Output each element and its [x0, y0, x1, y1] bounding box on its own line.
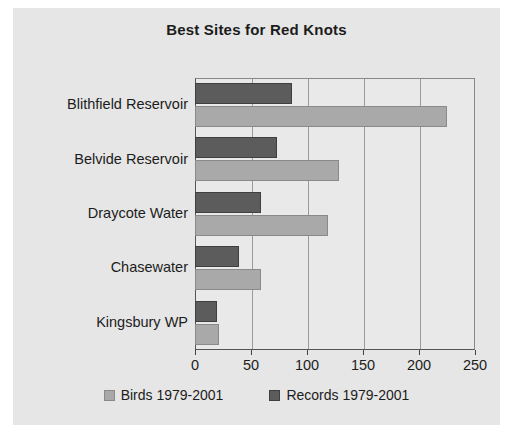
bar-birds	[195, 160, 339, 181]
category-label: Chasewater	[0, 259, 188, 275]
category-label: Belvide Reservoir	[0, 151, 188, 167]
category-label: Draycote Water	[0, 205, 188, 221]
x-tick-mark	[251, 350, 252, 355]
x-tick-label: 200	[394, 357, 444, 373]
legend-label: Records 1979-2001	[286, 387, 409, 403]
chart-title: Best Sites for Red Knots	[13, 21, 500, 38]
legend-entry: Records 1979-2001	[269, 387, 409, 403]
bar-records	[195, 246, 239, 267]
legend-swatch-icon	[104, 390, 115, 401]
bar-group	[195, 78, 475, 132]
x-tick-label: 100	[282, 357, 332, 373]
bar-birds	[195, 324, 219, 345]
legend-entry: Birds 1979-2001	[104, 387, 224, 403]
x-tick-mark	[195, 350, 196, 355]
x-tick-label: 0	[170, 357, 220, 373]
bar-birds	[195, 106, 447, 127]
bar-records	[195, 192, 261, 213]
x-tick-mark	[419, 350, 420, 355]
x-tick-label: 250	[450, 357, 500, 373]
bar-group	[195, 132, 475, 186]
bar-records	[195, 83, 292, 104]
chart-container: Best Sites for Red Knots Blithfield Rese…	[13, 8, 500, 425]
bar-group	[195, 187, 475, 241]
bar-birds	[195, 269, 261, 290]
x-tick-mark	[475, 350, 476, 355]
legend-label: Birds 1979-2001	[121, 387, 224, 403]
category-label: Blithfield Reservoir	[0, 96, 188, 112]
category-label: Kingsbury WP	[0, 314, 188, 330]
bar-group	[195, 241, 475, 295]
chart-legend: Birds 1979-2001Records 1979-2001	[13, 387, 500, 403]
x-tick-label: 50	[226, 357, 276, 373]
x-tick-label: 150	[338, 357, 388, 373]
bar-records	[195, 137, 277, 158]
x-tick-mark	[363, 350, 364, 355]
bar-records	[195, 301, 217, 322]
legend-swatch-icon	[269, 390, 280, 401]
x-tick-mark	[307, 350, 308, 355]
bar-group	[195, 296, 475, 350]
bar-birds	[195, 215, 328, 236]
